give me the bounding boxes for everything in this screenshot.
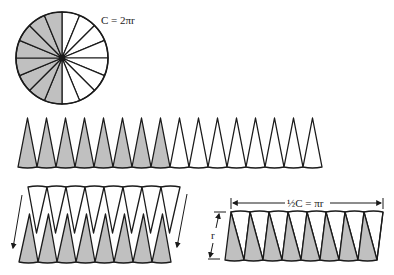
unshaded-triangle <box>246 118 265 168</box>
height-label: r <box>211 229 215 241</box>
shaded-triangle <box>37 118 56 168</box>
sectored-circle <box>16 12 108 104</box>
unshaded-triangle <box>265 118 284 168</box>
height-arrow-down <box>210 243 213 257</box>
unshaded-triangle <box>170 118 189 168</box>
unshaded-triangle <box>227 118 246 168</box>
left-down-arrow <box>13 195 22 248</box>
shaded-triangle <box>75 118 94 168</box>
interleaving-triangles <box>19 186 180 263</box>
unshaded-triangle <box>208 118 227 168</box>
circle-area-diagram: C = 2πr ½C = πr r <box>0 0 394 275</box>
triangle-strip <box>18 118 322 168</box>
width-label: ½C = πr <box>287 197 324 209</box>
height-arrow-up <box>216 214 219 228</box>
shaded-triangle <box>56 118 75 168</box>
right-down-arrow <box>177 194 187 247</box>
parallelogram-shape <box>225 211 383 261</box>
shaded-triangle <box>151 118 170 168</box>
shaded-triangle <box>113 118 132 168</box>
circumference-label: C = 2πr <box>101 14 135 26</box>
shaded-triangle <box>94 118 113 168</box>
unshaded-triangle <box>303 118 322 168</box>
shaded-triangle <box>18 118 37 168</box>
unshaded-triangle <box>284 118 303 168</box>
shaded-triangle <box>132 118 151 168</box>
unshaded-triangle <box>189 118 208 168</box>
